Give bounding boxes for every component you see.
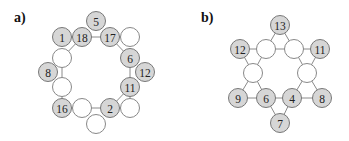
- panel-a-graph: 511817681211162: [39, 12, 155, 134]
- node-label: 18: [76, 32, 88, 44]
- graph-node-empty: [285, 40, 304, 59]
- node-label: 9: [235, 93, 241, 105]
- node-label: 4: [289, 93, 295, 105]
- node-label: 12: [139, 67, 151, 79]
- node-label: 8: [45, 67, 51, 79]
- node-label: 13: [274, 20, 286, 32]
- node-label: 5: [93, 16, 99, 28]
- node-label: 16: [56, 103, 68, 115]
- graph-node-empty: [121, 99, 140, 118]
- node-label: 6: [127, 53, 133, 65]
- node-label: 11: [124, 82, 135, 94]
- graph-diagram: 511817681211162 13121196487: [0, 0, 349, 141]
- node-label: 2: [107, 103, 113, 115]
- graph-node-empty: [121, 28, 140, 47]
- graph-node-empty: [53, 49, 72, 68]
- graph-node-empty: [53, 78, 72, 97]
- node-label: 12: [234, 44, 246, 56]
- graph-node-empty: [87, 115, 106, 134]
- panel-b-graph: 13121196487: [229, 16, 332, 133]
- graph-node-empty: [244, 64, 263, 83]
- node-label: 17: [104, 32, 116, 44]
- graph-node-empty: [73, 99, 92, 118]
- node-label: 8: [319, 93, 325, 105]
- node-label: 1: [59, 32, 65, 44]
- node-label: 7: [277, 118, 283, 130]
- graph-node-empty: [257, 40, 276, 59]
- graph-node-empty: [298, 64, 317, 83]
- node-label: 6: [263, 93, 269, 105]
- node-label: 11: [314, 44, 325, 56]
